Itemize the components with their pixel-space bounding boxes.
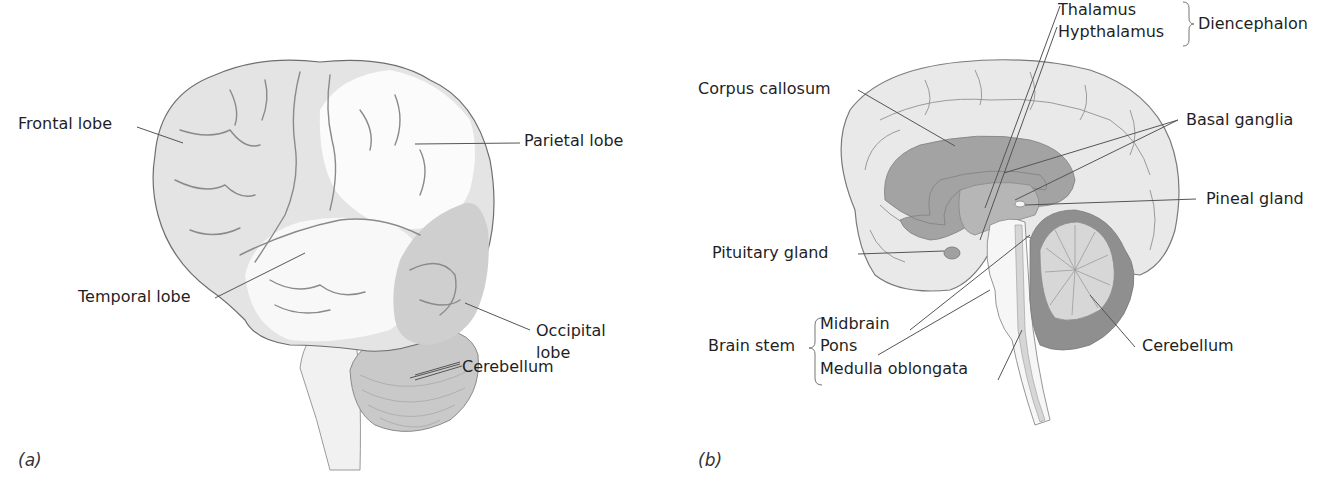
panel-letter-b: (b) <box>698 450 722 470</box>
label-occipital-lobe-line1: Occipital <box>536 321 606 341</box>
brain-diagram-art <box>0 0 1329 488</box>
lateral-brain-illustration <box>153 60 494 470</box>
label-pituitary-gland: Pituitary gland <box>712 243 829 263</box>
label-pineal-gland: Pineal gland <box>1206 189 1304 209</box>
label-medulla-oblongata: Medulla oblongata <box>820 359 968 379</box>
diencephalon-brace <box>1183 2 1194 46</box>
label-hypthalamus: Hypthalamus <box>1058 22 1164 42</box>
label-corpus-callosum: Corpus callosum <box>698 79 831 99</box>
label-temporal-lobe: Temporal lobe <box>78 287 191 307</box>
label-frontal-lobe: Frontal lobe <box>18 114 112 134</box>
label-parietal-lobe: Parietal lobe <box>524 131 623 151</box>
label-pons: Pons <box>820 336 857 356</box>
label-cerebellum-lateral: Cerebellum <box>462 357 554 377</box>
label-brain-stem: Brain stem <box>708 336 795 356</box>
label-diencephalon: Diencephalon <box>1198 14 1308 34</box>
label-midbrain: Midbrain <box>820 314 890 334</box>
label-basal-ganglia: Basal ganglia <box>1186 110 1293 130</box>
label-thalamus: Thalamus <box>1058 0 1136 20</box>
panel-letter-a: (a) <box>18 450 42 470</box>
label-cerebellum-midsagittal: Cerebellum <box>1142 336 1234 356</box>
